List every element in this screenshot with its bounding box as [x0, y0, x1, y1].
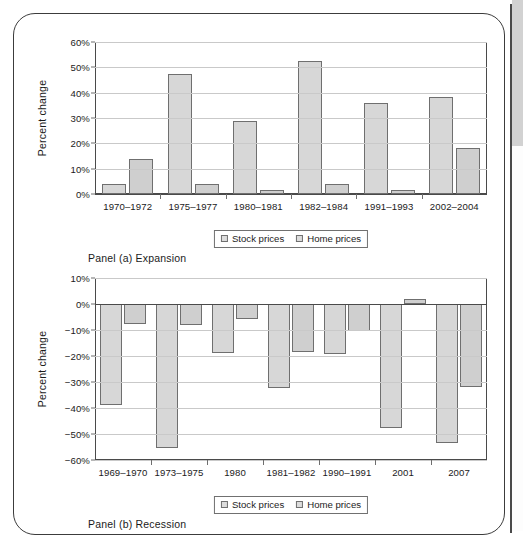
bar-home-prices [348, 304, 370, 331]
y-tick-label: 10% [70, 163, 90, 174]
y-tick-label: 30% [70, 113, 90, 124]
x-tick-label: 2002–2004 [430, 201, 479, 212]
legend-label-home-prices: Home prices [307, 233, 361, 244]
legend-panel-a: Stock prices Home prices [214, 230, 368, 248]
gridline [95, 408, 487, 409]
y-tick-mark [91, 42, 95, 43]
y-tick-label: −50% [65, 429, 90, 440]
y-tick-label: 60% [70, 37, 90, 48]
caption-panel-b: Panel (b) Recession [88, 518, 186, 530]
bars-layer-panel-b [95, 278, 487, 460]
y-tick-label: 10% [70, 273, 90, 284]
y-axis-title-panel-b: Percent change [36, 331, 48, 407]
bar-home-prices [456, 148, 480, 194]
bar-stock-prices [156, 304, 178, 448]
bar-stock-prices [100, 304, 122, 405]
page-edge-panel [512, 146, 523, 531]
gridline [95, 143, 487, 144]
plot-area-panel-b: 10%0%−10%−20%−30%−40%−50%−60%1969–197019… [95, 278, 487, 460]
x-tick-label: 1980–1981 [234, 201, 283, 212]
legend-label-stock-prices: Stock prices [232, 233, 284, 244]
y-tick-mark [91, 408, 95, 409]
legend-swatch-home-icon [296, 235, 303, 242]
bar-stock-prices [298, 61, 322, 194]
page-edge-tab [512, 0, 523, 146]
y-tick-label: 0% [76, 189, 90, 200]
y-tick-mark [91, 278, 95, 279]
y-tick-mark [91, 304, 95, 305]
bar-stock-prices [436, 304, 458, 443]
y-tick-label: −20% [65, 351, 90, 362]
x-tick-label: 1981–1982 [267, 467, 316, 478]
x-tick-mark [422, 194, 423, 199]
bar-stock-prices [102, 184, 126, 194]
gridline [95, 93, 487, 94]
y-tick-mark [91, 382, 95, 383]
bar-home-prices [236, 304, 258, 319]
legend-item-home-prices-b: Home prices [296, 499, 361, 510]
gridline [95, 460, 487, 461]
y-tick-label: 0% [76, 299, 90, 310]
gridline [95, 169, 487, 170]
page-edge-rule [510, 4, 512, 533]
bar-home-prices [325, 184, 349, 194]
x-tick-label: 2007 [448, 467, 470, 478]
x-tick-label: 1980 [224, 467, 246, 478]
x-tick-mark [291, 194, 292, 199]
x-tick-mark [356, 194, 357, 199]
y-tick-mark [91, 143, 95, 144]
x-tick-label: 1990–1991 [323, 467, 372, 478]
gridline [95, 382, 487, 383]
legend-swatch-home-icon [296, 501, 303, 508]
bar-stock-prices [429, 97, 453, 194]
gridline [95, 330, 487, 331]
legend-item-home-prices-a: Home prices [296, 233, 361, 244]
gridline [95, 118, 487, 119]
bar-home-prices [460, 304, 482, 387]
x-tick-mark [207, 460, 208, 465]
y-tick-mark [91, 194, 95, 195]
bar-home-prices [129, 159, 153, 194]
x-tick-mark [431, 460, 432, 465]
legend-item-stock-prices-a: Stock prices [221, 233, 284, 244]
x-tick-mark [160, 194, 161, 199]
x-tick-mark [226, 194, 227, 199]
chart-panel-recession: Percent change 10%0%−10%−20%−30%−40%−50%… [30, 268, 490, 530]
y-tick-mark [91, 330, 95, 331]
x-tick-label: 1982–1984 [299, 201, 348, 212]
bar-stock-prices [233, 121, 257, 194]
y-tick-mark [91, 460, 95, 461]
bar-stock-prices [268, 304, 290, 388]
y-tick-label: 50% [70, 62, 90, 73]
y-tick-label: −60% [65, 455, 90, 466]
bar-home-prices [195, 184, 219, 194]
gridline [95, 356, 487, 357]
bar-stock-prices [380, 304, 402, 428]
y-axis-title-panel-a: Percent change [36, 80, 48, 156]
bar-stock-prices [212, 304, 234, 353]
bar-stock-prices [364, 103, 388, 194]
legend-label-stock-prices: Stock prices [232, 499, 284, 510]
y-tick-label: −30% [65, 377, 90, 388]
legend-label-home-prices: Home prices [307, 499, 361, 510]
legend-panel-b: Stock prices Home prices [214, 496, 368, 514]
x-tick-mark [151, 460, 152, 465]
y-tick-mark [91, 67, 95, 68]
x-tick-label: 1973–1975 [155, 467, 204, 478]
x-tick-label: 1991–1993 [365, 201, 414, 212]
y-tick-label: 40% [70, 87, 90, 98]
x-tick-label: 1975–1977 [169, 201, 218, 212]
y-tick-mark [91, 434, 95, 435]
x-tick-label: 2001 [392, 467, 414, 478]
y-tick-label: −10% [65, 325, 90, 336]
x-tick-mark [319, 460, 320, 465]
y-tick-mark [91, 92, 95, 93]
x-tick-label: 1970–1972 [103, 201, 152, 212]
x-tick-label: 1969–1970 [99, 467, 148, 478]
zero-line [95, 304, 487, 305]
bar-home-prices [180, 304, 202, 325]
gridline [95, 67, 487, 68]
y-tick-mark [91, 168, 95, 169]
plot-area-panel-a: 0%10%20%30%40%50%60%1970–19721975–197719… [95, 42, 487, 194]
legend-swatch-stock-icon [221, 235, 228, 242]
